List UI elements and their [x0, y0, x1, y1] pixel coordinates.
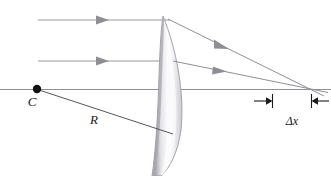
incident-ray-marginal — [38, 16, 170, 25]
dimension-arrowhead-icon — [266, 97, 273, 105]
dimension-arrowhead-icon — [312, 97, 319, 105]
diagram-canvas: C R Δx — [0, 0, 331, 176]
incident-ray-paraxial — [38, 57, 174, 66]
ray-arrowhead-icon — [214, 40, 229, 50]
ray-arrowhead-icon — [96, 16, 109, 25]
refracted-ray-paraxial — [173, 61, 328, 93]
spherical-aberration-diagram: C R Δx — [0, 0, 331, 176]
center-of-curvature-point — [33, 85, 41, 93]
aberration-dimension — [254, 94, 329, 108]
label-center-of-curvature: C — [28, 94, 37, 109]
label-aberration-delta-x: Δx — [285, 114, 299, 128]
label-radius: R — [89, 112, 98, 127]
converging-lens — [152, 16, 182, 176]
refracted-ray-marginal — [168, 19, 324, 96]
ray-arrowhead-icon — [96, 57, 109, 66]
radius-line — [39, 90, 173, 134]
ray-arrowhead-icon — [212, 67, 227, 75]
